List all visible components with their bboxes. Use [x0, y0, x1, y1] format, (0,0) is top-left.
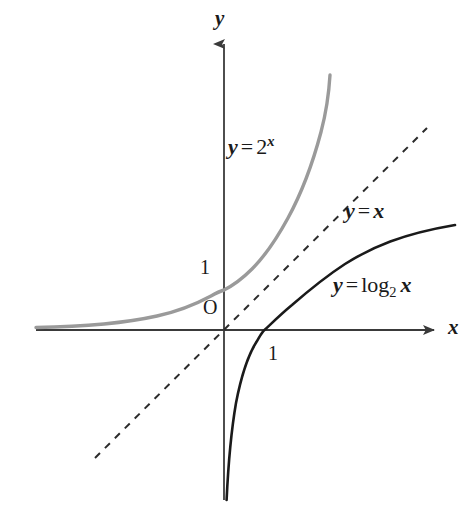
curve-exponential — [36, 75, 330, 328]
origin-label: O — [203, 297, 217, 317]
exp-label-lhs: y — [228, 134, 238, 159]
log-label-function: log — [361, 272, 389, 297]
log-label-subscript: 2 — [389, 284, 396, 300]
tick-label-x-1: 1 — [268, 343, 278, 363]
line-label-equals: = — [355, 198, 373, 223]
exp-label-exponent: x — [267, 133, 274, 149]
curve-label-logarithm: y=log2x — [333, 274, 412, 300]
line-label-lhs: y — [345, 198, 355, 223]
plot-canvas — [0, 0, 474, 515]
curve-label-identity: y=x — [345, 200, 384, 222]
curve-logarithm — [227, 225, 455, 500]
exp-label-base: 2 — [256, 134, 267, 159]
curve-label-exponential: y=2x — [228, 134, 274, 158]
log-label-lhs: y — [333, 272, 343, 297]
x-axis-label: x — [448, 317, 459, 338]
line-label-rhs: x — [373, 198, 384, 223]
exp-label-equals: = — [238, 134, 256, 159]
logarithm-exponential-graph-figure: y x O 1 1 y=2x y=x y=log2x — [0, 0, 474, 515]
log-label-equals: = — [343, 272, 361, 297]
log-label-argument: x — [401, 272, 412, 297]
y-axis-label: y — [215, 8, 224, 29]
tick-label-y-1: 1 — [200, 257, 210, 277]
